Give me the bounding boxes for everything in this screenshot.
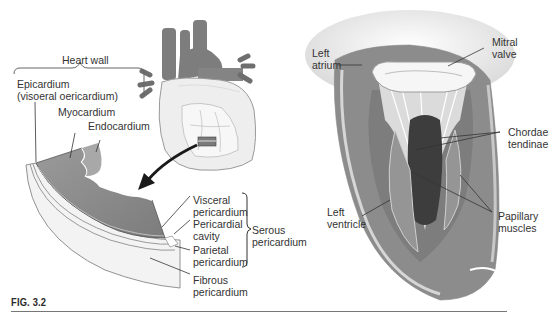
label-pericardial-cavity: Pericardial cavity bbox=[193, 218, 243, 242]
label-endocardium: Endocardium bbox=[88, 120, 150, 132]
label-left-ventricle: Left ventricle bbox=[327, 206, 366, 230]
label-left-atrium: Left atrium bbox=[312, 47, 341, 71]
figure-caption: FIG. 3.2 bbox=[11, 296, 46, 308]
whole-heart-drawing bbox=[140, 20, 256, 170]
label-parietal-pericardium: Parietal pericardium bbox=[193, 244, 248, 268]
label-fibrous-pericardium: Fibrous pericardium bbox=[193, 274, 248, 298]
heart-anatomy-illustration bbox=[0, 0, 558, 321]
label-myocardium: Myocardium bbox=[58, 106, 115, 118]
label-visceral-pericardium: Visceral pericardium bbox=[193, 194, 248, 218]
label-mitral-valve: Mitral valve bbox=[492, 36, 518, 60]
label-heart-wall: Heart wall bbox=[62, 54, 109, 66]
label-chordae-tendinae: Chordae tendinae bbox=[508, 126, 548, 150]
caption-rule bbox=[11, 311, 507, 312]
label-serous-pericardium: Serous pericardium bbox=[252, 224, 307, 248]
heart-wall-cross-section bbox=[26, 143, 180, 288]
label-papillary-muscles: Papillary muscles bbox=[498, 210, 538, 234]
label-epicardium: Epicardium (visoeral oericardium) bbox=[17, 78, 118, 102]
